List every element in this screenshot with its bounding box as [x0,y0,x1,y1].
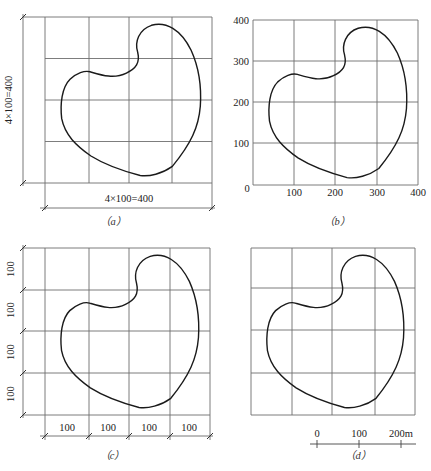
x-tick-300: 300 [369,187,385,198]
y-segment-label: 100 [5,302,16,318]
panel-d: 0 100 200m （d） [251,248,416,461]
scale-bar-d: 0 100 200m [310,428,416,448]
y-segment-label: 100 [5,344,16,360]
shape-outline-d [267,255,404,407]
x-segment-label: 100 [59,422,75,433]
y-axis-labels-b: 400 300 200 100 [233,15,249,149]
x-tick-200: 200 [327,187,343,198]
y-segment-label: 100 [5,261,16,277]
caption-b: （b） [324,216,349,227]
y-tick-300: 300 [233,56,249,67]
y-segment-label: 100 [5,386,16,402]
y-tick-100: 100 [233,138,249,149]
shape-outline-b [269,27,407,178]
x-segment-label: 100 [181,422,197,433]
caption-a: （a） [100,216,125,227]
grid-c [23,248,210,440]
dimension-ticks-c [20,245,213,439]
scale-label-0: 0 [314,428,319,439]
panel-b: 400 300 200 100 0 100 200 300 400 （b） [233,15,426,227]
x-tick-400: 400 [410,187,426,198]
caption-d: （d） [345,450,370,461]
y-segment-labels-c: 100 100 100 100 [5,261,16,402]
scale-label-100: 100 [351,428,367,439]
dimension-lines-a [23,14,215,208]
figure-canvas: 4×100=400 4×100=400 （a） 400 300 200 100 [0,0,431,471]
y-tick-200: 200 [233,97,249,108]
x-tick-0: 0 [244,183,249,194]
dimension-ticks-a [20,14,215,211]
scale-label-200m: 200m [389,428,413,439]
horizontal-dimension-label: 4×100=400 [105,193,154,204]
x-segment-label: 100 [100,422,116,433]
x-segment-labels-c: 100 100 100 100 [59,422,197,433]
caption-c: （c） [100,450,125,461]
panel-a: 4×100=400 4×100=400 （a） [3,14,215,227]
vertical-dimension-label: 4×100=400 [3,76,14,125]
x-segment-label: 100 [141,422,157,433]
panel-c: 100 100 100 100 100 100 100 100 （c） [5,245,213,461]
shape-outline-c [61,255,199,407]
x-tick-100: 100 [286,187,302,198]
y-tick-400: 400 [233,15,249,26]
grid-a [23,17,212,210]
